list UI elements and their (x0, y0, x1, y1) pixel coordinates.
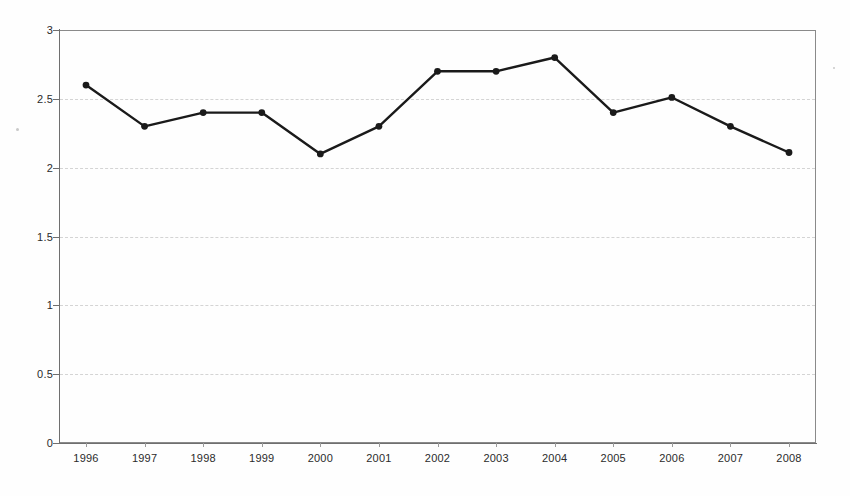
x-axis-tick-label: 2001 (349, 452, 409, 464)
x-axis-tick-label: 1996 (56, 452, 116, 464)
x-tick-mark (320, 443, 321, 447)
x-axis-labels: 1996199719981999200020012002200320042005… (0, 452, 850, 472)
y-axis-tick-label: 0 (5, 438, 53, 449)
x-axis-tick-label: 1999 (232, 452, 292, 464)
y-tick-mark (53, 30, 59, 31)
y-tick-mark (53, 99, 59, 100)
y-axis-tick-label: 1.5 (5, 232, 53, 243)
x-axis-tick-label: 1997 (115, 452, 175, 464)
x-tick-mark (203, 443, 204, 447)
x-axis-tick-label: 2000 (290, 452, 350, 464)
y-axis-tick-label: 0.5 (5, 369, 53, 380)
x-tick-mark (613, 443, 614, 447)
y-axis-line (59, 29, 60, 444)
y-tick-mark (53, 443, 59, 444)
scan-artifact-speck (833, 67, 835, 69)
x-axis-tick-label: 2007 (700, 452, 760, 464)
y-axis-labels: 00.511.522.53 (0, 0, 53, 496)
y-axis-tick-label: 2 (5, 163, 53, 174)
x-axis-tick-label: 2006 (642, 452, 702, 464)
x-tick-mark (555, 443, 556, 447)
y-tick-mark (53, 168, 59, 169)
line-chart: 00.511.522.53 19961997199819992000200120… (0, 0, 850, 496)
x-tick-mark (730, 443, 731, 447)
x-tick-mark (438, 443, 439, 447)
x-axis-tick-label: 1998 (173, 452, 233, 464)
x-tick-mark (86, 443, 87, 447)
x-axis-tick-label: 2008 (759, 452, 819, 464)
plot-area (59, 30, 816, 443)
x-tick-mark (145, 443, 146, 447)
y-tick-mark (53, 305, 59, 306)
x-axis-tick-label: 2004 (525, 452, 585, 464)
y-axis-tick-label: 3 (5, 25, 53, 36)
y-axis-tick-label: 2.5 (5, 94, 53, 105)
x-tick-mark (262, 443, 263, 447)
y-axis-tick-label: 1 (5, 300, 53, 311)
x-tick-mark (379, 443, 380, 447)
x-axis-tick-label: 2002 (408, 452, 468, 464)
x-tick-mark (789, 443, 790, 447)
x-tick-mark (496, 443, 497, 447)
x-tick-mark (672, 443, 673, 447)
x-axis-tick-label: 2005 (583, 452, 643, 464)
y-tick-mark (53, 374, 59, 375)
x-axis-tick-label: 2003 (466, 452, 526, 464)
y-tick-mark (53, 237, 59, 238)
